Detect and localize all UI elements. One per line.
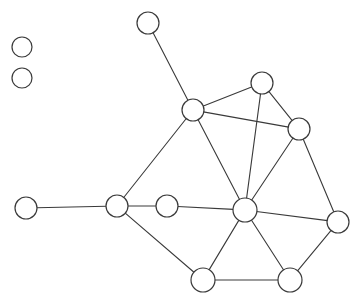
upper-right-node[interactable] [251, 72, 273, 94]
graph-edge [153, 32, 188, 100]
graph-edge [247, 93, 261, 198]
graph-edge [251, 138, 293, 201]
graph-edge [177, 207, 233, 210]
bottom-left-node[interactable] [191, 268, 215, 292]
graph-edge [251, 220, 284, 271]
graph-edge [125, 213, 194, 273]
graph-edge [209, 220, 239, 270]
node-layer [12, 12, 349, 292]
edge-layer [36, 32, 333, 280]
isolated-node-upper[interactable] [12, 37, 32, 57]
graph-edge [203, 112, 288, 127]
left-junction-node[interactable] [106, 195, 128, 217]
top-pendant-node[interactable] [137, 12, 159, 34]
graph-edge [269, 91, 293, 121]
isolated-node-lower[interactable] [12, 68, 32, 88]
upper-left-hub-node[interactable] [182, 99, 204, 121]
graph-edge [256, 211, 327, 220]
graph-edge [303, 139, 334, 213]
right-lower-node[interactable] [327, 211, 349, 233]
right-upper-node[interactable] [288, 118, 310, 140]
graph-svg [0, 0, 361, 301]
mid-chain-node[interactable] [156, 195, 178, 217]
bottom-right-node[interactable] [278, 268, 302, 292]
left-pendant-node[interactable] [15, 197, 37, 219]
center-hub-node[interactable] [233, 198, 257, 222]
graph-edge [36, 206, 106, 208]
graph-edge [297, 230, 331, 271]
graph-edge [124, 118, 187, 198]
graph-edge [203, 87, 252, 106]
graph-edge [198, 119, 240, 199]
graph-canvas [0, 0, 361, 301]
